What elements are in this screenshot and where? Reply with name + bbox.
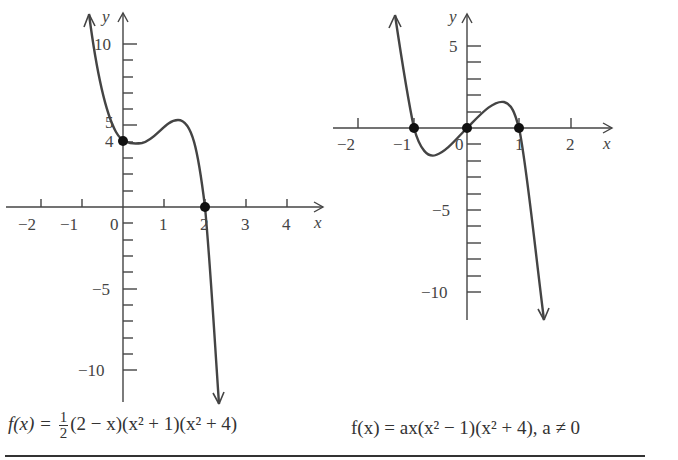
- left-point-y-intercept: [118, 136, 128, 146]
- left-y-label-neg5: −5: [92, 280, 110, 299]
- right-y-ticks: [467, 46, 481, 292]
- right-curve: [395, 15, 544, 320]
- right-x-label-neg2: −2: [337, 135, 355, 154]
- right-y-label-5: 5: [449, 37, 458, 56]
- left-y-label-4: 4: [105, 132, 114, 151]
- right-formula: f(x) = ax(x² − 1)(x² + 4), a ≠ 0: [351, 417, 580, 439]
- right-x-label-neg1: −1: [393, 135, 411, 154]
- left-curve: [89, 14, 219, 404]
- left-point-x-intercept: [200, 202, 210, 212]
- right-y-label-neg5: −5: [432, 201, 450, 220]
- fraction-numerator: 1: [59, 410, 69, 426]
- left-x-label-0: 0: [110, 215, 119, 234]
- left-x-ticks: [41, 199, 287, 207]
- left-x-label-3: 3: [241, 215, 250, 234]
- left-y-label-neg10: −10: [78, 361, 105, 380]
- left-x-axis-label: x: [313, 213, 322, 232]
- chart-canvas: y x 10 5 4 −5 −10 −2 −1 0 1 2 3 4: [0, 0, 678, 460]
- right-x-label-2: 2: [566, 135, 575, 154]
- right-x-axis-label: x: [602, 134, 611, 153]
- bottom-rule: [5, 455, 645, 457]
- left-x-label-1: 1: [159, 215, 168, 234]
- left-x-label-4: 4: [282, 215, 291, 234]
- right-point-origin: [462, 123, 472, 133]
- left-formula-fraction: 12: [59, 410, 69, 441]
- right-point-neg1: [409, 123, 419, 133]
- right-y-label-neg10: −10: [421, 283, 448, 302]
- right-y-axis-label: y: [447, 7, 457, 26]
- fraction-denominator: 2: [59, 426, 69, 441]
- left-formula-lhs: f(x) =: [8, 413, 57, 434]
- left-x-label-neg2: −2: [18, 215, 36, 234]
- left-y-axis-label: y: [100, 7, 110, 26]
- left-y-label-10: 10: [94, 35, 111, 54]
- left-graph: y x 10 5 4 −5 −10 −2 −1 0 1 2 3 4: [6, 7, 323, 404]
- right-graph: y x 5 −5 −10 −2 −1 0 1 2: [333, 7, 612, 320]
- left-formula: f(x) = 12(2 − x)(x² + 1)(x² + 4): [8, 410, 237, 441]
- right-point-1: [514, 123, 524, 133]
- left-x-label-neg1: −1: [60, 215, 78, 234]
- left-formula-rhs: (2 − x)(x² + 1)(x² + 4): [70, 413, 237, 434]
